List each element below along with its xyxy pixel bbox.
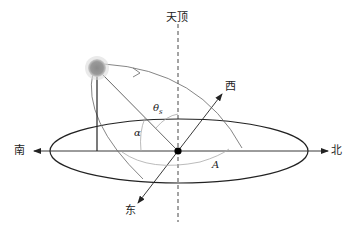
south-label: 南 (14, 145, 25, 156)
solar-geometry-diagram (0, 0, 356, 228)
altitude-arc (141, 118, 146, 151)
sun-icon (85, 56, 109, 80)
zenith-angle-label: θs (153, 103, 163, 116)
observer-point (174, 147, 181, 154)
azimuth-angle-label: A (212, 160, 219, 170)
zenith-label: 天顶 (166, 12, 188, 23)
east-label: 东 (125, 205, 136, 216)
north-label: 北 (331, 145, 342, 156)
zenith-angle-subscript: s (159, 108, 163, 116)
sun-path-arc (104, 64, 242, 148)
west-label: 西 (225, 81, 236, 92)
east-arrow (138, 151, 178, 203)
sun-ray (100, 72, 178, 151)
zenith-angle-arc (156, 114, 178, 128)
altitude-angle-label: α (134, 128, 141, 138)
west-arrow (178, 94, 222, 151)
